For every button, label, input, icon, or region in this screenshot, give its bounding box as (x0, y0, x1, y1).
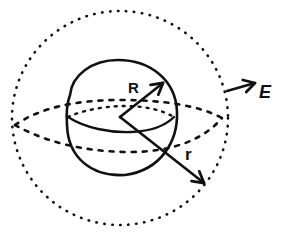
radius-R-arrow (120, 83, 163, 117)
field-E-arrow (227, 83, 255, 91)
label-r: r (185, 145, 192, 164)
label-R: R (128, 79, 139, 96)
gauss-law-diagram: R r E (0, 0, 282, 233)
label-E: E (259, 82, 272, 102)
